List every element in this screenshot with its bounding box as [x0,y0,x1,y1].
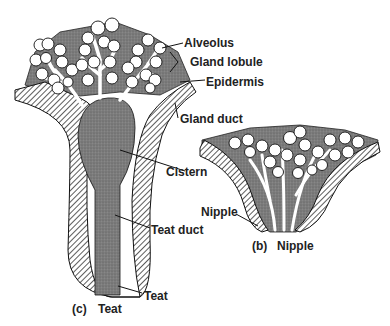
label-gland-duct: Gland duct [180,112,243,126]
caption-c-letter: (c) [72,302,87,316]
teat-figure [15,18,196,297]
label-epidermis: Epidermis [206,75,264,89]
label-nipple: Nipple [201,205,238,219]
label-teat: Teat [144,289,168,303]
caption-b-letter: (b) [252,239,267,253]
label-cistern: Cistern [166,165,207,179]
label-gland-lobule: Gland lobule [190,55,263,69]
mammary-gland-diagram: Alveolus Gland lobule Epidermis Gland du… [0,0,390,326]
caption-c-text: Teat [98,302,122,316]
label-alveolus: Alveolus [184,36,234,50]
caption-b-text: Nipple [277,239,314,253]
label-teat-duct: Teat duct [151,223,203,237]
